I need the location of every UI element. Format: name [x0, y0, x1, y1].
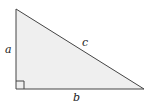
label-a: a [5, 44, 12, 55]
triangle-diagram [0, 0, 153, 104]
label-c: c [82, 37, 88, 48]
label-b: b [73, 92, 80, 103]
right-triangle [16, 9, 144, 89]
